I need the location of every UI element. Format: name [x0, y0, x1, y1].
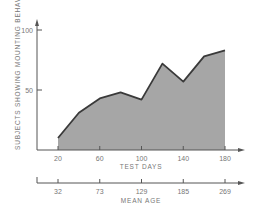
y-axis-title: SUBJECTS SHOWING MOUNTING BEHAVIOR, PERC…: [14, 0, 21, 150]
age-tick-label: 73: [96, 188, 104, 195]
y-axis: 10050: [21, 19, 42, 150]
y-ticks: 10050: [21, 27, 42, 94]
x-axis: 2060100140180 TEST DAYS: [37, 146, 245, 170]
age-tick-label: 32: [54, 188, 62, 195]
x-tick-label: 180: [219, 155, 231, 162]
age-axis-title: MEAN AGE: [121, 197, 161, 204]
y-tick-label: 50: [25, 87, 33, 94]
y-tick-label: 100: [21, 27, 33, 34]
area-chart: 10050 2060100140180 TEST DAYS 3273129185…: [0, 0, 262, 216]
age-tick-label: 269: [219, 188, 231, 195]
x-tick-label: 60: [96, 155, 104, 162]
y-axis-arrow-icon: [35, 19, 39, 26]
x-axis-arrow-icon: [238, 148, 245, 152]
age-tick-label: 129: [136, 188, 148, 195]
age-axis: 3273129185269 MEAN AGE: [37, 177, 245, 204]
age-tick-label: 185: [177, 188, 189, 195]
x-tick-label: 100: [136, 155, 148, 162]
x-tick-label: 20: [54, 155, 62, 162]
x-axis-title: TEST DAYS: [120, 163, 163, 170]
age-ticks: 3273129185269: [54, 179, 231, 195]
age-axis-arrow-icon: [238, 181, 245, 185]
x-tick-label: 140: [177, 155, 189, 162]
plot-area: [58, 50, 225, 150]
